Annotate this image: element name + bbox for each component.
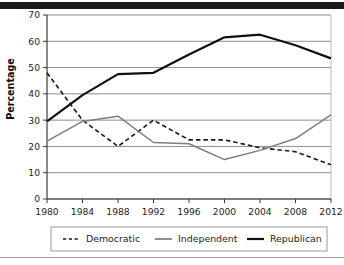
y-tick-label-50: 50 <box>28 62 40 73</box>
x-tick-label-1988: 1988 <box>106 206 130 217</box>
figure-container: 0102030405060701980198419881992199620002… <box>0 0 344 265</box>
y-tick-label-70: 70 <box>28 9 40 20</box>
x-tick-label-1992: 1992 <box>142 206 165 217</box>
y-tick-label-20: 20 <box>28 141 40 152</box>
page-bottom-rule <box>0 257 344 258</box>
page-top-rule <box>0 2 344 9</box>
x-tick-label-2004: 2004 <box>248 206 272 217</box>
legend-label-republican: Republican <box>270 233 322 244</box>
y-tick-label-60: 60 <box>28 36 40 47</box>
x-tick-label-1980: 1980 <box>35 206 59 217</box>
x-tick-label-2012: 2012 <box>319 206 342 217</box>
line-chart: 0102030405060701980198419881992199620002… <box>0 9 344 257</box>
x-tick-label-2000: 2000 <box>213 206 237 217</box>
legend-label-independent: Independent <box>178 233 238 244</box>
legend-label-democratic: Democratic <box>86 233 140 244</box>
chart-area: 0102030405060701980198419881992199620002… <box>0 9 344 257</box>
y-axis-title: Percentage <box>5 58 16 120</box>
x-tick-label-1996: 1996 <box>177 206 201 217</box>
x-tick-label-2008: 2008 <box>284 206 308 217</box>
y-tick-label-30: 30 <box>28 115 40 126</box>
y-tick-label-40: 40 <box>28 88 40 99</box>
y-tick-label-10: 10 <box>28 167 40 178</box>
y-tick-label-0: 0 <box>34 193 40 204</box>
x-tick-label-1984: 1984 <box>71 206 95 217</box>
